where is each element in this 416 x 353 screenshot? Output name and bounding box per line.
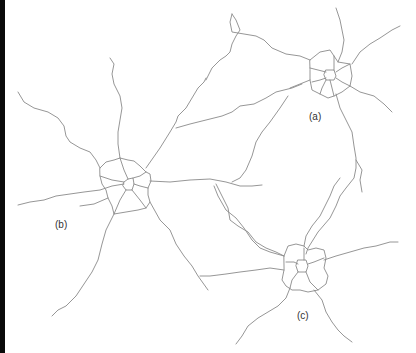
highway-a-east [350,86,392,112]
spoke-b [134,184,148,188]
spoke-a [336,64,350,72]
ring-road-c-outer [282,244,328,292]
cluster-b [18,58,262,316]
highway-c-east [324,242,398,260]
spoke-b [133,172,146,178]
road-a-to-c-spur [356,160,362,192]
spoke-a [336,78,350,86]
spoke-b [120,158,128,179]
highway-c-west [200,268,284,276]
cluster-label-c: (c) [297,311,309,321]
highway-b-northeast [146,78,206,168]
spoke-b [132,190,146,208]
highway-b-southwest-alt [80,198,108,206]
spoke-c [290,272,298,288]
ring-road-b-outer [100,158,151,214]
spoke-c [306,272,318,290]
highway-a-northwest [230,14,310,60]
cluster-a [230,8,400,112]
highway-c-south [314,290,352,342]
highway-c-southwest [236,288,290,344]
ring-road-c-inner [296,260,308,272]
spoke-a [312,78,326,82]
spoke-a [330,80,334,96]
highway-b-northwest [18,92,100,168]
highway-a-west [290,80,310,88]
highway-a-north [336,8,344,62]
spoke-b [100,176,124,182]
spoke-a [320,80,326,94]
highway-c-northwest [214,186,284,256]
ring-road-b-inner [123,178,134,190]
cluster-label-b: (b) [55,220,67,230]
highway-b-west [18,184,124,205]
highway-b-south [150,202,208,290]
road-b-to-a [176,84,302,128]
road-a-to-b-east [232,96,288,182]
highway-c-north [304,178,340,246]
spoke-a [310,68,326,72]
highway-b-north [110,58,122,158]
spoke-c [286,262,298,264]
road-b-to-a-upper [206,14,240,80]
spoke-b [114,190,126,214]
interurban-roads [176,14,362,256]
road-network-diagram [0,0,416,353]
road-b-to-c [216,184,284,256]
highway-a-northeast [352,26,400,64]
spoke-c [308,258,324,264]
cluster-label-a: (a) [309,112,321,122]
ring-road-a-outer [310,50,352,98]
highway-b-east [150,179,262,186]
